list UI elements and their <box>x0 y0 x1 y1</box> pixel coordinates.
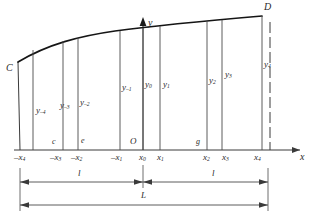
dimension-label-L-total: L <box>141 191 146 200</box>
diagram-canvas <box>0 0 317 217</box>
ordinate-label-ym1: y–1 <box>122 83 132 93</box>
point-label-c-endpoint: C <box>6 63 13 73</box>
y-axis-arrowhead <box>140 17 147 26</box>
station-label-x2: x2 <box>203 153 210 163</box>
station-label-xm1: –x1 <box>111 153 122 163</box>
dimension-l-left-arrow-start <box>20 179 29 185</box>
dimension-l-right-arrow-start <box>143 179 152 185</box>
point-label-d-endpoint: D <box>264 2 271 12</box>
curve-cd <box>18 16 262 62</box>
ordinate-label-y3: y3 <box>225 70 232 80</box>
point-marker-g: g <box>196 138 200 146</box>
dimension-label-l-left: l <box>78 169 81 178</box>
point-marker-e: e <box>81 137 85 145</box>
station-label-x3: x3 <box>222 153 229 163</box>
point-marker-c: c <box>52 138 56 146</box>
origin-label: O <box>130 137 137 146</box>
station-label-x4: x4 <box>254 153 261 163</box>
ordinate-label-y2: y2 <box>209 76 216 86</box>
dimension-l-right-arrow-end <box>259 179 268 185</box>
dimension-l-right <box>143 168 268 188</box>
x-axis-arrowhead <box>292 147 300 153</box>
station-label-x1: x1 <box>157 153 164 163</box>
boundary-line-left <box>18 62 20 150</box>
dimension-L-arrow-end <box>259 202 268 208</box>
ordinate-label-ym4: y–4 <box>36 106 46 116</box>
dimension-L-arrow-start <box>20 202 29 208</box>
ordinate-label-ym3: y–3 <box>60 101 70 111</box>
ordinate-label-ym2: y–2 <box>80 98 90 108</box>
station-label-xm2: –x2 <box>71 153 82 163</box>
x-axis-label: x <box>300 152 304 162</box>
y-axis-label: y <box>148 18 152 28</box>
station-label-xm3: –x3 <box>50 153 61 163</box>
station-label-xm4: –x4 <box>14 153 25 163</box>
ordinate-label-y1: y1 <box>163 80 170 90</box>
station-label-x0: x0 <box>139 153 146 163</box>
ordinate-diagram: C D y x O c e g –x4 –x3 –x2 –x1 x0 x1 x2… <box>0 0 317 217</box>
dimension-l-left-arrow-end <box>134 179 143 185</box>
ordinate-label-y0: y0 <box>145 80 152 90</box>
dimension-label-l-right: l <box>212 169 215 178</box>
ordinate-label-y4: y4 <box>264 60 271 70</box>
dimension-l-left <box>20 165 143 188</box>
